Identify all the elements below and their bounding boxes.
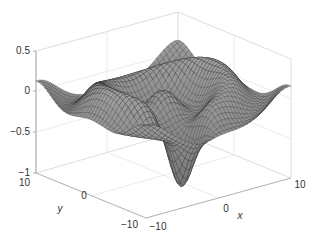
x-axis-label: x bbox=[237, 210, 244, 221]
surface-mesh bbox=[36, 40, 291, 187]
y-tick-10: 10 bbox=[19, 177, 31, 188]
y-tick-minus-10: −10 bbox=[121, 219, 138, 230]
x-tick-0: 0 bbox=[223, 203, 229, 214]
y-axis-label: y bbox=[57, 203, 64, 214]
z-tick-minus-0.5: −0.5 bbox=[10, 126, 30, 137]
x-tick-minus-10: −10 bbox=[150, 221, 167, 232]
z-tick-0: 0 bbox=[24, 85, 30, 96]
surface-plot: 0.5 0 −0.5 −1 10 0 −10 y −10 0 10 x bbox=[0, 0, 311, 241]
x-tick-10: 10 bbox=[294, 179, 306, 190]
z-tick-0.5: 0.5 bbox=[16, 45, 30, 56]
y-tick-0: 0 bbox=[81, 190, 87, 201]
